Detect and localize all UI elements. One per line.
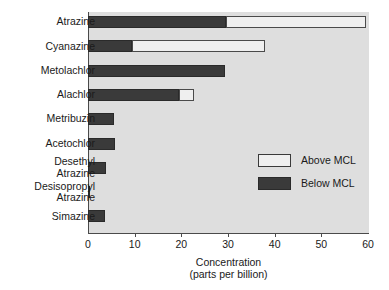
legend-label: Below MCL [301,177,355,189]
x-axis-title-line2: (parts per billion) [88,268,369,280]
x-tick-mark [275,233,276,237]
x-tick-label: 50 [306,238,336,250]
x-tick-label: 10 [120,238,150,250]
legend-swatch-below-mcl [258,177,291,190]
category-label: Metolachlor [41,65,95,77]
bar-segment-above-mcl [226,16,366,28]
x-tick-mark [135,233,136,237]
bar-segment-below-mcl [88,16,226,28]
bar-segment-below-mcl [88,89,179,101]
bar-segment-above-mcl [132,40,265,52]
category-label: Acetochlor [45,138,95,150]
x-tick-label: 60 [353,238,383,250]
x-tick-label: 20 [166,238,196,250]
x-tick-label: 30 [213,238,243,250]
bar-segment-below-mcl [88,65,225,77]
category-label: Simazine [52,211,95,223]
category-label: Desethyl Atrazine [54,156,95,179]
x-axis-title-line1: Concentration [196,256,261,268]
legend-label: Above MCL [301,154,356,166]
category-label: Atrazine [56,16,95,28]
category-label: Alachlor [57,89,95,101]
x-tick-label: 40 [260,238,290,250]
category-label: Cyanazine [45,41,95,53]
bar-chart: AtrazineCyanazineMetolachlorAlachlorMetr… [0,0,389,290]
x-tick-mark [181,233,182,237]
x-axis-title: Concentration (parts per billion) [88,256,369,280]
category-label: Desisopropyl Atrazine [34,181,95,204]
x-tick-mark [321,233,322,237]
legend-swatch-above-mcl [258,154,291,167]
bar-segment-above-mcl [179,89,194,101]
category-label: Metribuzin [47,113,95,125]
x-tick-mark [228,233,229,237]
x-tick-label: 0 [73,238,103,250]
